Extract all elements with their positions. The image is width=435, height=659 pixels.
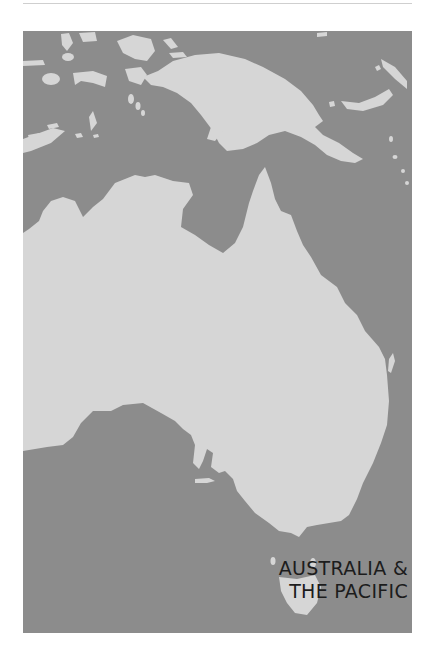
map-title: AUSTRALIA & THE PACIFIC (279, 557, 408, 603)
map-graphic (23, 31, 412, 633)
king-island (271, 557, 276, 565)
top-divider-rule (23, 3, 412, 4)
map-title-line2: THE PACIFIC (279, 580, 408, 603)
map-australia-pacific (23, 31, 412, 633)
map-title-line1: AUSTRALIA & (279, 557, 408, 580)
